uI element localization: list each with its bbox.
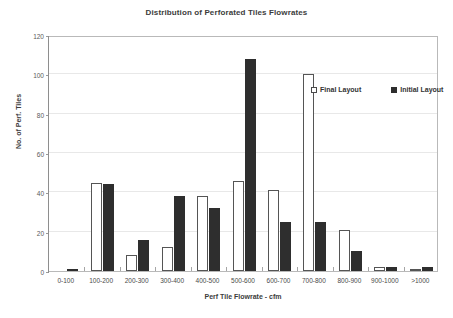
bar-9001000-final: [374, 267, 385, 271]
legend-entry: Initial Layout: [391, 86, 443, 93]
y-axis-ticks: 020406080100120: [14, 36, 44, 272]
x-tick-mark: [226, 267, 227, 271]
x-tick-label: >1000: [411, 277, 429, 284]
bar-1000-final: [410, 269, 421, 271]
bar-500600-initial: [245, 59, 256, 271]
legend-entry: Final Layout: [311, 86, 361, 93]
x-tick-label: 500-600: [231, 277, 255, 284]
bar-400500-initial: [209, 208, 220, 271]
hollow-square-icon: [311, 87, 317, 93]
x-tick-mark: [120, 267, 121, 271]
x-tick-label: 100-200: [89, 277, 113, 284]
y-tick-label: 120: [18, 33, 44, 40]
bar-300400-final: [162, 247, 173, 271]
x-tick-mark: [297, 267, 298, 271]
x-tick-label: 300-400: [160, 277, 184, 284]
chart-container: Distribution of Perforated Tiles Flowrat…: [0, 0, 453, 318]
x-tick-mark: [368, 267, 369, 271]
bar-800900-initial: [351, 251, 362, 271]
chart-legend: Final LayoutInitial Layout: [311, 86, 443, 93]
x-axis-tick-labels: 0-100100-200200-300300-400400-500500-600…: [48, 277, 438, 291]
x-tick-label: 400-500: [196, 277, 220, 284]
bar-0100-initial: [67, 269, 78, 271]
x-tick-label: 700-800: [302, 277, 326, 284]
bar-200300-initial: [138, 240, 149, 271]
x-axis-title: Perf Tile Flowrate - cfm: [48, 293, 438, 300]
legend-label: Final Layout: [320, 86, 361, 93]
x-tick-mark: [333, 267, 334, 271]
y-tick-label: 40: [18, 190, 44, 197]
bar-100200-initial: [103, 184, 114, 271]
x-tick-label: 600-700: [267, 277, 291, 284]
x-tick-mark: [155, 267, 156, 271]
legend-label: Initial Layout: [400, 86, 443, 93]
bars-layer: [49, 37, 437, 271]
bar-600700-final: [268, 190, 279, 271]
bar-500600-final: [233, 181, 244, 271]
y-tick-label: 80: [18, 111, 44, 118]
chart-title: Distribution of Perforated Tiles Flowrat…: [0, 8, 453, 17]
x-tick-mark: [191, 267, 192, 271]
bar-600700-initial: [280, 222, 291, 271]
x-tick-mark: [404, 267, 405, 271]
filled-square-icon: [391, 87, 397, 93]
x-tick-label: 0-100: [57, 277, 74, 284]
x-tick-label: 900-1000: [371, 277, 398, 284]
bar-700800-final: [303, 74, 314, 271]
x-tick-mark: [84, 267, 85, 271]
y-tick-label: 100: [18, 72, 44, 79]
y-tick-label: 0: [18, 269, 44, 276]
bar-400500-final: [197, 196, 208, 271]
bar-800900-final: [339, 230, 350, 271]
bar-700800-initial: [315, 222, 326, 271]
bar-300400-initial: [174, 196, 185, 271]
bar-200300-final: [126, 255, 137, 271]
bar-1000-initial: [422, 267, 433, 271]
y-tick-label: 60: [18, 151, 44, 158]
y-axis-line: [48, 36, 49, 273]
x-tick-mark: [262, 267, 263, 271]
x-tick-label: 800-900: [337, 277, 361, 284]
bar-100200-final: [91, 183, 102, 272]
bar-9001000-initial: [386, 267, 397, 271]
plot-area: Final LayoutInitial Layout: [48, 36, 438, 272]
y-tick-label: 20: [18, 229, 44, 236]
x-tick-label: 200-300: [125, 277, 149, 284]
